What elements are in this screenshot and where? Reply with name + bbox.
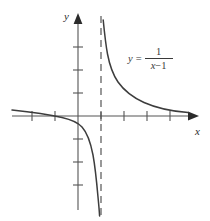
x-axis-arrowhead bbox=[188, 112, 199, 121]
equation-left-side: y bbox=[128, 53, 133, 64]
plot-canvas bbox=[0, 0, 210, 221]
denominator-constant: 1 bbox=[161, 60, 166, 71]
y-axis-label: y bbox=[64, 11, 69, 22]
x-axis-label: x bbox=[195, 126, 200, 137]
fraction-denominator: x−1 bbox=[149, 60, 169, 71]
y-axis-arrowhead bbox=[74, 13, 83, 24]
function-graph-figure: y x y = 1 x−1 bbox=[0, 0, 210, 221]
curve-left-branch bbox=[12, 110, 100, 216]
equation-equals-sign: = bbox=[136, 53, 142, 64]
fraction-bar bbox=[145, 58, 173, 59]
equation-fraction: 1 x−1 bbox=[145, 46, 173, 71]
equation-annotation: y = 1 x−1 bbox=[128, 46, 173, 71]
fraction-numerator: 1 bbox=[153, 46, 164, 57]
